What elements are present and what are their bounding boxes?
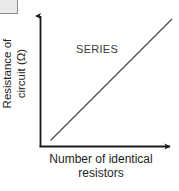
y-axis-label: Resistance of circuit (Ω) bbox=[0, 0, 30, 148]
y-axis-label-line1: Resistance of bbox=[1, 39, 15, 109]
series-annotation-label: SERIES bbox=[76, 43, 118, 55]
x-axis-label: Number of identical resistors bbox=[26, 152, 176, 181]
x-axis-label-line1: Number of identical bbox=[26, 152, 176, 166]
x-axis-label-line2: resistors bbox=[26, 166, 176, 180]
resistance-vs-resistors-figure: SERIES Resistance of circuit (Ω) Number … bbox=[0, 0, 179, 191]
series-line bbox=[51, 19, 173, 141]
y-axis-label-line2: circuit (Ω) bbox=[15, 39, 29, 109]
